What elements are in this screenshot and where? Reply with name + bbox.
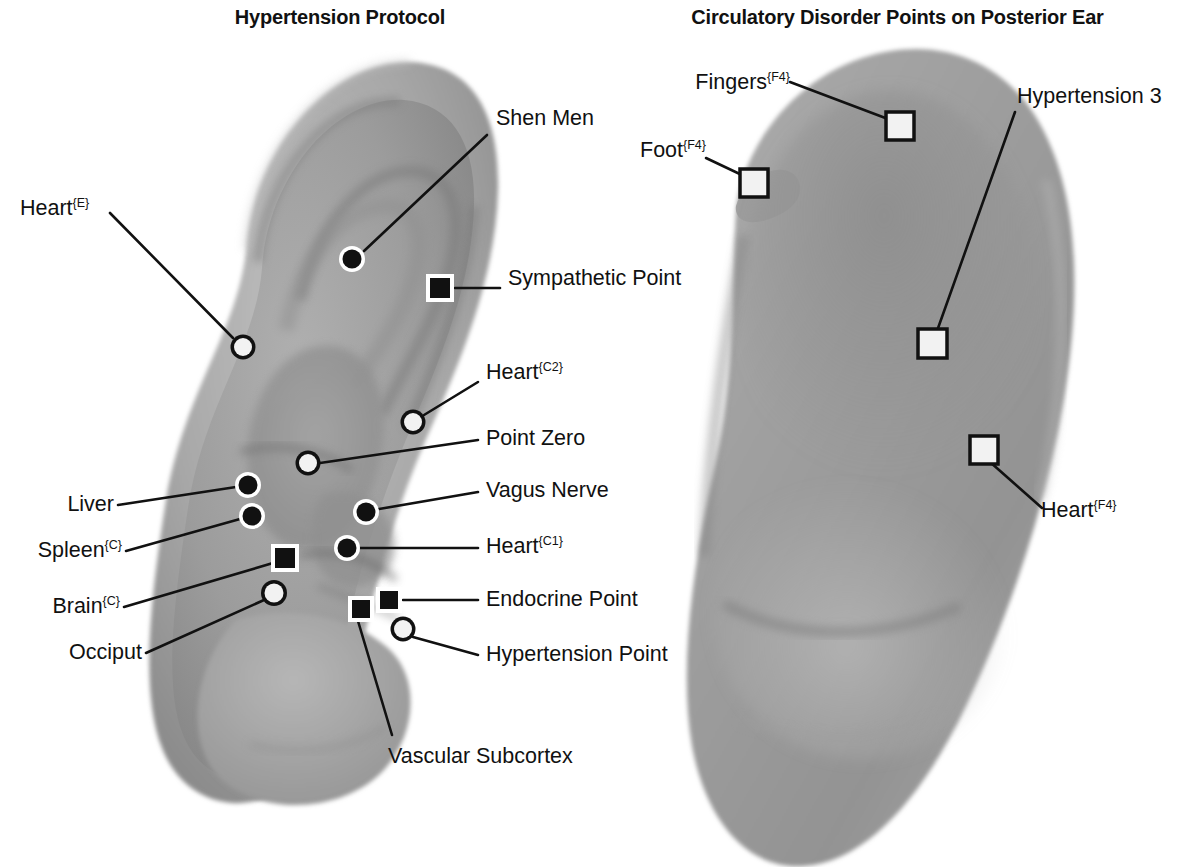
marker-heart-f4 bbox=[970, 436, 998, 464]
label-endocrine-point: Endocrine Point bbox=[486, 589, 638, 611]
label-heart-c1: Heart{C1} bbox=[486, 536, 563, 558]
label-heart-e-superscript: {E} bbox=[73, 196, 90, 210]
label-hypertension-point-text: Hypertension Point bbox=[486, 642, 668, 666]
marker-heart-e bbox=[234, 338, 252, 356]
label-heart-c2-text: Heart bbox=[486, 360, 539, 384]
label-vascular-subcortex: Vascular Subcortex bbox=[388, 746, 573, 768]
label-heart-f4-superscript: {F4} bbox=[1094, 498, 1117, 512]
label-hypertension-3-text: Hypertension 3 bbox=[1017, 84, 1162, 108]
label-point-zero: Point Zero bbox=[486, 428, 585, 450]
label-hypertension-point: Hypertension Point bbox=[486, 644, 668, 666]
label-spleen-text: Spleen bbox=[38, 538, 105, 562]
label-brain-text: Brain bbox=[52, 594, 102, 618]
label-foot-superscript: {F4} bbox=[683, 138, 706, 152]
marker-shen-men bbox=[343, 250, 362, 269]
label-heart-c2: Heart{C2} bbox=[486, 362, 563, 384]
label-heart-f4-text: Heart bbox=[1041, 498, 1094, 522]
marker-hypertension-point bbox=[394, 620, 412, 638]
marker-vagus-nerve bbox=[357, 503, 376, 522]
label-heart-e: Heart{E} bbox=[20, 198, 89, 220]
marker-heart-c2 bbox=[404, 413, 422, 431]
label-occiput: Occiput bbox=[0, 642, 142, 664]
label-point-zero-text: Point Zero bbox=[486, 426, 585, 450]
label-liver-text: Liver bbox=[67, 492, 114, 516]
label-brain-superscript: {C} bbox=[103, 594, 120, 608]
label-spleen-superscript: {C} bbox=[105, 538, 122, 552]
label-heart-c2-superscript: {C2} bbox=[539, 360, 563, 374]
marker-occiput bbox=[265, 584, 284, 603]
marker-heart-c1 bbox=[338, 539, 357, 558]
label-hypertension-3: Hypertension 3 bbox=[1017, 86, 1162, 108]
label-heart-c1-text: Heart bbox=[486, 534, 539, 558]
label-shen-men: Shen Men bbox=[496, 108, 594, 130]
marker-spleen bbox=[243, 507, 262, 526]
label-sympathetic-point: Sympathetic Point bbox=[508, 268, 681, 290]
marker-point-zero bbox=[299, 454, 317, 472]
label-fingers: Fingers{F4} bbox=[600, 72, 790, 94]
label-endocrine-point-text: Endocrine Point bbox=[486, 587, 638, 611]
marker-vascular-subcortex bbox=[352, 600, 370, 618]
label-fingers-text: Fingers bbox=[695, 70, 767, 94]
label-liver: Liver bbox=[0, 494, 114, 516]
ear-illustrations bbox=[0, 0, 1195, 867]
marker-foot-f4 bbox=[740, 169, 768, 197]
label-foot: Foot{F4} bbox=[600, 140, 706, 162]
marker-fingers-f4 bbox=[886, 112, 914, 140]
label-brain: Brain{C} bbox=[0, 596, 120, 618]
marker-hypertension-3 bbox=[918, 329, 947, 358]
label-sympathetic-point-text: Sympathetic Point bbox=[508, 266, 681, 290]
label-vascular-subcortex-text: Vascular Subcortex bbox=[388, 744, 573, 768]
label-occiput-text: Occiput bbox=[69, 640, 142, 664]
marker-sympathetic-point bbox=[430, 278, 450, 298]
leader-heart-e bbox=[110, 213, 233, 338]
ear-acupuncture-figure: Hypertension Protocol Circulatory Disord… bbox=[0, 0, 1195, 867]
label-heart-f4: Heart{F4} bbox=[1041, 500, 1117, 522]
label-heart-e-text: Heart bbox=[20, 196, 73, 220]
marker-liver bbox=[239, 476, 258, 495]
leader-hypertension-point bbox=[413, 637, 478, 655]
label-shen-men-text: Shen Men bbox=[496, 106, 594, 130]
label-vagus-nerve-text: Vagus Nerve bbox=[486, 478, 609, 502]
label-fingers-superscript: {F4} bbox=[767, 70, 790, 84]
label-vagus-nerve: Vagus Nerve bbox=[486, 480, 609, 502]
label-spleen: Spleen{C} bbox=[0, 540, 122, 562]
label-heart-c1-superscript: {C1} bbox=[539, 534, 563, 548]
marker-endocrine-point bbox=[380, 591, 398, 609]
label-foot-text: Foot bbox=[640, 138, 683, 162]
marker-brain bbox=[275, 548, 295, 568]
